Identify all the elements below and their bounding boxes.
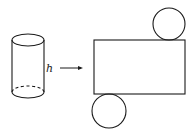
cylinder-net xyxy=(92,8,185,128)
cylinder-bottom-front-arc xyxy=(12,92,44,98)
arrow-head-icon xyxy=(78,66,83,70)
net-top-circle xyxy=(153,8,185,40)
net-rectangle xyxy=(94,40,185,94)
net-bottom-circle xyxy=(92,94,126,128)
cylinder-top-ellipse xyxy=(12,34,44,46)
cylinder-net-diagram: h xyxy=(0,0,195,136)
cylinder xyxy=(12,34,44,98)
cylinder-bottom-back-arc xyxy=(12,86,44,92)
height-label: h xyxy=(46,62,53,75)
arrow xyxy=(60,66,83,70)
